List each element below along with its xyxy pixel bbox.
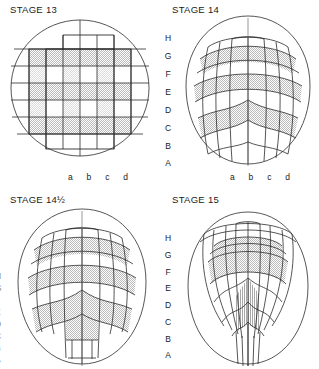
row-label-E: E [0, 308, 5, 317]
row-label-B: B [162, 335, 174, 344]
stage-15-row-labels: H G F E D C B A [162, 234, 174, 360]
row-label-D: D [162, 106, 174, 115]
row-label-F: F [162, 70, 174, 79]
row-label-G: G [0, 284, 5, 293]
stage-14-half-row-labels: H G F E D C B A [0, 272, 5, 364]
panel-title-stage-14-half: STAGE 14½ [10, 194, 65, 205]
stage-14-column-labels: a b c d [230, 172, 290, 182]
stage-13-column-labels: a b c d [68, 172, 128, 182]
row-label-E: E [162, 284, 174, 293]
stage-14-half-diagram [10, 206, 155, 369]
col-label-c: c [105, 172, 109, 182]
fate-map-figure: STAGE 13 [0, 0, 319, 369]
row-label-B: B [162, 142, 174, 151]
row-label-H: H [162, 34, 174, 43]
row-label-B: B [0, 344, 5, 353]
col-label-b: b [87, 172, 92, 182]
row-label-C: C [162, 318, 174, 327]
stage-14-row-labels: H G F E D C B A [162, 34, 174, 168]
row-label-C: C [0, 332, 5, 341]
col-label-d: d [285, 172, 290, 182]
col-label-a: a [68, 172, 73, 182]
panel-stage-15: STAGE 15 H G F E D C B A [160, 190, 319, 369]
stage-14-diagram [178, 14, 318, 169]
row-label-C: C [162, 124, 174, 133]
col-label-b: b [249, 172, 254, 182]
row-label-D: D [0, 320, 5, 329]
row-label-A: A [162, 351, 174, 360]
row-label-A: A [162, 159, 174, 168]
panel-stage-13: STAGE 13 [0, 0, 160, 190]
panel-stage-14: STAGE 14 H G F E D C B A [160, 0, 319, 190]
panel-title-stage-13: STAGE 13 [10, 4, 57, 15]
row-label-F: F [0, 296, 5, 305]
row-label-F: F [162, 268, 174, 277]
col-label-d: d [123, 172, 128, 182]
stage-13-diagram [5, 16, 155, 166]
row-label-G: G [162, 251, 174, 260]
col-label-c: c [267, 172, 271, 182]
panel-stage-14-half: STAGE 14½ H G F E D C B A [0, 190, 160, 369]
row-label-E: E [162, 88, 174, 97]
col-label-a: a [230, 172, 235, 182]
row-label-H: H [0, 272, 5, 281]
row-label-G: G [162, 52, 174, 61]
row-label-H: H [162, 234, 174, 243]
stage-15-diagram [178, 204, 318, 369]
row-label-D: D [162, 301, 174, 310]
row-label-A: A [0, 355, 5, 364]
